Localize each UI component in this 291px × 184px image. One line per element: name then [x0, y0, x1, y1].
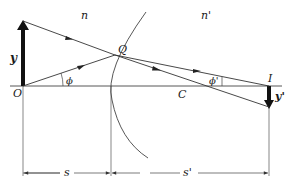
refracting-surface — [111, 12, 148, 158]
object-arrow-head — [17, 20, 29, 30]
label-y-prime: y' — [274, 90, 285, 103]
label-Q: Q — [118, 43, 127, 56]
label-y: y — [9, 51, 18, 65]
label-phi-prime: ϕ' — [209, 75, 219, 86]
angle-phi-arc — [61, 73, 63, 86]
label-s-prime: s' — [183, 166, 192, 179]
label-n: n — [81, 9, 88, 22]
label-C: C — [178, 88, 187, 101]
label-phi: ϕ — [66, 75, 73, 86]
label-s: s — [64, 166, 70, 179]
label-I: I — [267, 72, 273, 85]
image-arrow-head — [264, 100, 274, 109]
label-n-prime: n' — [201, 9, 211, 22]
ray-top-refracted-arrow — [152, 66, 161, 71]
refraction-diagram: n n' y O Q ϕ ϕ' C I y' s s' — [0, 0, 291, 184]
ray-axis-arrow — [77, 65, 85, 70]
ray-top-arrow — [65, 36, 73, 40]
label-O: O — [13, 87, 22, 100]
